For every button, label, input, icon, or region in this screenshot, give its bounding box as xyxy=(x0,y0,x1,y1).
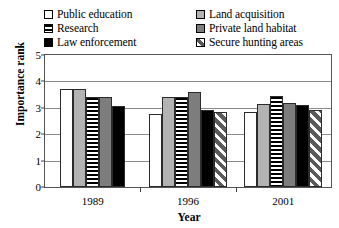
bar xyxy=(270,96,283,187)
legend-swatch-private-land-habitat-icon xyxy=(196,24,205,33)
bar xyxy=(149,114,162,187)
legend-label: Land acquisition xyxy=(209,8,284,21)
legend-label: Private land habitat xyxy=(209,22,296,35)
x-tick-mark xyxy=(236,187,237,192)
legend-item-land-acquisition: Land acquisition xyxy=(196,8,334,21)
bar xyxy=(99,97,112,187)
bar xyxy=(214,112,227,187)
y-tick-label: 3 xyxy=(36,102,42,113)
legend-swatch-land-acquisition-icon xyxy=(196,10,205,19)
y-tick-label: 1 xyxy=(36,155,42,166)
legend-label: Public education xyxy=(57,8,132,21)
bar xyxy=(60,89,73,187)
bar-group-1996 xyxy=(140,55,235,187)
bar xyxy=(86,97,99,187)
x-tick-label: 1996 xyxy=(177,195,199,207)
x-tick-mark xyxy=(140,187,141,192)
bar xyxy=(175,97,188,187)
legend-swatch-law-enforcement-icon xyxy=(44,38,53,47)
bar xyxy=(201,110,214,187)
x-tick-label: 2001 xyxy=(272,195,294,207)
bar xyxy=(283,103,296,187)
bar xyxy=(244,112,257,187)
bar xyxy=(309,110,322,187)
legend-swatch-public-education-icon xyxy=(44,10,53,19)
bar xyxy=(73,89,86,187)
y-tick-label: 5 xyxy=(36,50,42,61)
plot-area: 012345198919962001 xyxy=(44,54,332,188)
x-axis-title: Year xyxy=(44,211,334,223)
bar-group-2001 xyxy=(236,55,331,187)
bar xyxy=(296,105,309,187)
bar-group-1989 xyxy=(45,55,140,187)
legend-label: Research xyxy=(57,22,98,35)
legend-swatch-research-icon xyxy=(44,24,53,33)
y-axis-title: Importance rank xyxy=(14,24,26,144)
legend-item-law-enforcement: Law enforcement xyxy=(44,36,196,49)
legend-item-public-education: Public education xyxy=(44,8,196,21)
x-tick-label: 1989 xyxy=(82,195,104,207)
chart-legend: Public education Land acquisition Resear… xyxy=(44,7,334,50)
legend-label: Law enforcement xyxy=(57,36,136,49)
bar xyxy=(257,104,270,187)
legend-item-secure-hunting-areas: Secure hunting areas xyxy=(196,36,334,49)
legend-swatch-secure-hunting-areas-icon xyxy=(196,38,205,47)
y-tick-label: 0 xyxy=(36,182,42,193)
y-tick-label: 2 xyxy=(36,129,42,140)
legend-item-research: Research xyxy=(44,22,196,35)
legend-item-private-land-habitat: Private land habitat xyxy=(196,22,334,35)
bar-chart-figure: Public education Land acquisition Resear… xyxy=(0,0,339,228)
legend-label: Secure hunting areas xyxy=(209,36,303,49)
y-tick-label: 4 xyxy=(36,76,42,87)
bar xyxy=(188,92,201,187)
bar xyxy=(112,106,125,187)
bar xyxy=(162,97,175,187)
